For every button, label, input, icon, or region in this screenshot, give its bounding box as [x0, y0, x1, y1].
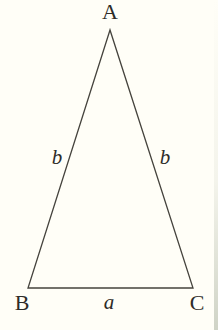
side-label-b-right: b — [160, 147, 171, 168]
vertex-label-a: A — [102, 1, 118, 23]
vertex-label-c: C — [190, 292, 205, 314]
side-label-a-base: a — [104, 292, 115, 313]
side-label-b-left: b — [52, 147, 63, 168]
triangle-drawing — [0, 0, 218, 330]
vertex-label-b: B — [15, 292, 30, 314]
triangle-figure: A B C b b a — [0, 0, 218, 330]
